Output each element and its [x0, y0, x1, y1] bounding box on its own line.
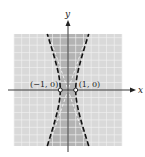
y-axis-arrow-icon: [66, 20, 71, 26]
open-point: [74, 88, 78, 92]
open-point: [58, 88, 62, 92]
point-label: (1, 0): [79, 80, 101, 89]
y-axis-label: y: [64, 9, 71, 19]
x-axis-label: x: [138, 85, 143, 95]
x-axis-arrow-icon: [130, 88, 136, 93]
hyperbola-chart: x y (−1, 0)(1, 0): [0, 0, 145, 157]
point-label: (−1, 0): [30, 80, 58, 89]
